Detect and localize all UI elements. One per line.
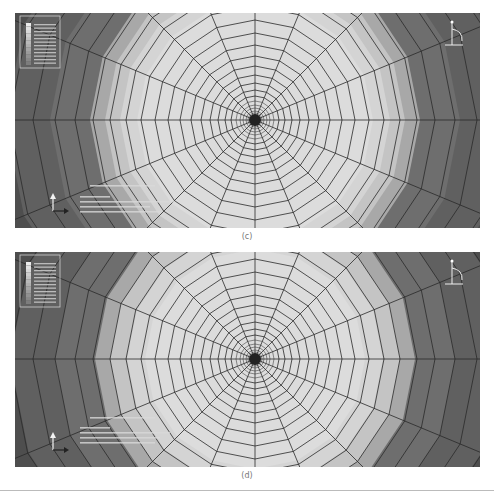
bottom-divider bbox=[0, 490, 494, 491]
figure-caption-c: (c) bbox=[0, 232, 494, 241]
contour-plot-d bbox=[15, 252, 480, 467]
contour-plot-c bbox=[15, 13, 480, 228]
mesh-contour-c bbox=[15, 13, 480, 228]
figure-caption-d: (d) bbox=[0, 471, 494, 480]
mesh-contour-d bbox=[15, 252, 480, 467]
